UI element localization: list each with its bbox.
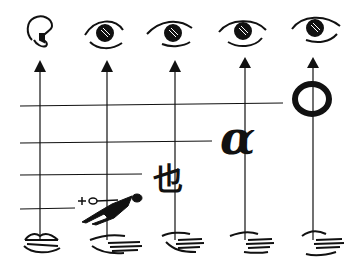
level-3 [20,174,142,175]
vertical-arrows [34,57,319,240]
level-2 [20,141,212,143]
letter-alpha: α [220,111,255,165]
ideogram-character: 也 [153,161,183,196]
eye-icon-3 [219,21,266,46]
hand-icon-4 [302,231,344,255]
ear-icon [28,16,52,46]
eye-icon-4 [292,18,340,42]
hand-icon-1 [90,235,142,253]
level-1 [20,103,283,106]
senses-diagram: 也 α [0,0,364,275]
hand-icon-3 [230,232,274,252]
eye-icon-1 [85,22,123,49]
eye-icon-2 [147,22,192,46]
pictogram-figure [78,194,142,225]
lips-icon [24,234,60,252]
level-4 [20,208,75,209]
hand-icon-2 [162,233,204,252]
letter-o [295,84,329,114]
